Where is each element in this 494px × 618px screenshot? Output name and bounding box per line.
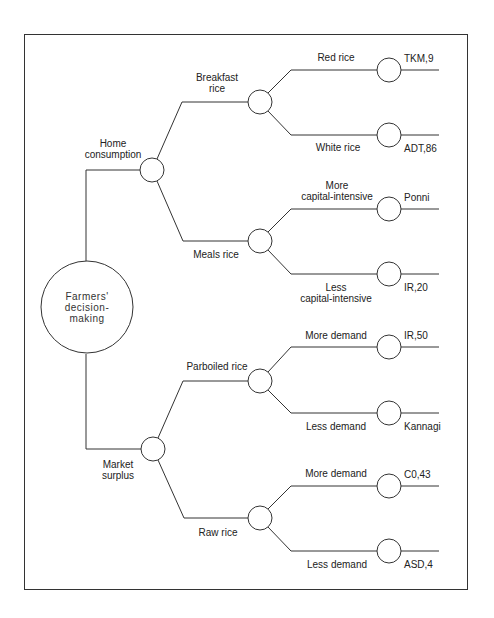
leaf-label-ponni: Ponni [404,192,430,203]
edge-market-parboiled [158,381,248,438]
raw-node [248,506,272,530]
edge-less-capital [268,250,377,274]
edge-parboiled-less [268,390,377,413]
leaf-node-ir50 [377,335,401,359]
market-surplus-label: Market surplus [102,459,134,481]
home-consumption-label: Home consumption [85,138,142,160]
edge-raw-less [268,527,377,551]
edge-label-red-rice: Red rice [317,52,354,63]
decision-tree-diagram: Farmers' decision- making Home consumpti… [0,0,494,618]
edge-more-capital [268,209,377,232]
root-label: Farmers' decision- making [47,291,127,324]
meals-node [248,229,272,253]
label-line: Raw rice [199,527,238,538]
breakfast-node [248,90,272,114]
edge-label-parboiled-more-demand: More demand [305,330,367,341]
edge-parboiled-more [268,347,377,372]
label-line: Meals rice [193,249,239,260]
label-line: capital-intensive [300,293,372,304]
label-line: Parboiled rice [186,361,247,372]
edge-label-parboiled-less-demand: Less demand [306,421,366,432]
leaf-node-co43 [377,474,401,498]
edge-white [268,111,377,135]
edge-home-meals [157,181,248,241]
leaf-node-ir20 [377,262,401,286]
leaf-label-kannagi: Kannagi [404,421,441,432]
edge-home-breakfast [157,102,248,159]
leaf-node-kannagi [377,401,401,425]
label-line: consumption [85,149,142,160]
edge-label-more-capital-intensive: More capital-intensive [301,180,373,202]
label-line: Less demand [307,559,367,570]
breakfast-rice-label: Breakfast rice [196,72,238,94]
label-line: More demand [305,468,367,479]
leaf-label-ir20: IR,20 [404,282,428,293]
leaf-node-tkm9 [377,58,401,82]
leaf-label-ir50: IR,50 [404,330,428,341]
parboiled-node [248,369,272,393]
label-line: More [301,180,373,191]
edge-raw-more [268,486,377,509]
leaf-node-ponni [377,197,401,221]
label-line: Less demand [306,421,366,432]
leaf-label-adt86: ADT,86 [404,143,437,154]
edge-label-raw-less-demand: Less demand [307,559,367,570]
leaf-label-co43: C0,43 [404,469,431,480]
label-line: Market [102,459,134,470]
home-node [140,158,164,182]
label-line: More demand [305,330,367,341]
label-line: Red rice [317,52,354,63]
edge-label-white-rice: White rice [316,142,360,153]
leaf-label-tkm9: TKM,9 [404,53,433,64]
root-label-line: decision- [47,302,127,313]
edge-market-raw [158,460,248,518]
parboiled-rice-label: Parboiled rice [186,361,247,372]
label-line: capital-intensive [301,191,373,202]
leaf-node-asd4 [377,539,401,563]
meals-rice-label: Meals rice [193,249,239,260]
leaf-label-asd4: ASD,4 [404,559,433,570]
leaf-node-adt86 [377,123,401,147]
edge-red [268,70,377,93]
label-line: surplus [102,470,134,481]
edge-label-less-capital-intensive: Less capital-intensive [300,282,372,304]
label-line: Breakfast [196,72,238,83]
label-line: Less [300,282,372,293]
edge-label-raw-more-demand: More demand [305,468,367,479]
root-label-line: Farmers' [47,291,127,302]
label-line: rice [196,83,238,94]
label-line: White rice [316,142,360,153]
label-line: Home [85,138,142,149]
market-node [141,437,165,461]
raw-rice-label: Raw rice [199,527,238,538]
root-label-line: making [47,313,127,324]
